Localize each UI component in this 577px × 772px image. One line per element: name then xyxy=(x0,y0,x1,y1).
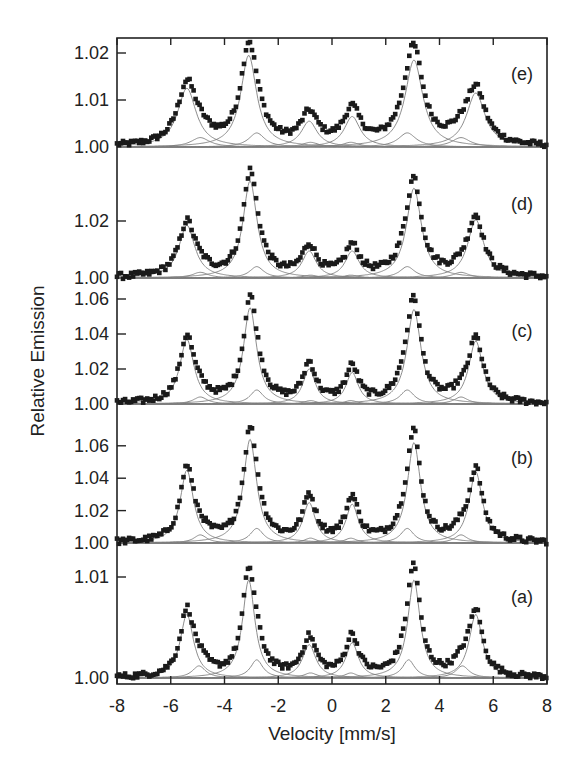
x-tick-label: 8 xyxy=(542,696,552,716)
panel-label: (e) xyxy=(511,64,533,84)
data-points xyxy=(115,561,549,682)
fit-component-line xyxy=(117,643,547,678)
panel-b: 1.001.021.041.06(b) xyxy=(74,425,549,553)
fit-component-line xyxy=(117,645,547,678)
y-tick-label: 1.00 xyxy=(74,137,109,157)
y-tick-label: 1.00 xyxy=(74,533,109,553)
data-points xyxy=(115,425,549,546)
x-tick-label: -6 xyxy=(163,696,179,716)
x-tick-label: -4 xyxy=(216,696,232,716)
y-tick-label: 1.01 xyxy=(74,90,109,110)
data-points xyxy=(115,292,549,406)
panel-a: 1.001.01(a) xyxy=(74,561,549,689)
y-tick-label: 1.06 xyxy=(74,436,109,456)
y-tick-label: 1.00 xyxy=(74,668,109,688)
fit-component-line xyxy=(117,503,547,543)
y-tick-label: 1.02 xyxy=(74,43,109,63)
x-tick-label: -2 xyxy=(270,696,286,716)
fit-component-line xyxy=(117,369,547,404)
panel-label: (b) xyxy=(511,448,533,468)
fit-component-line xyxy=(117,614,547,678)
data-points xyxy=(115,166,549,282)
y-axis-title: Relative Emission xyxy=(27,286,48,437)
fit-component-line xyxy=(117,121,547,147)
y-tick-label: 1.04 xyxy=(74,468,109,488)
y-tick-label: 1.02 xyxy=(74,211,109,231)
y-tick-label: 1.06 xyxy=(74,289,109,309)
y-tick-label: 1.02 xyxy=(74,359,109,379)
x-tick-label: 6 xyxy=(488,696,498,716)
fit-component-line xyxy=(117,341,547,404)
plot-panels: 1.001.011.02(e)1.001.02(d)1.001.021.041.… xyxy=(74,40,549,688)
fit-component-line xyxy=(117,339,547,404)
panel-label: (c) xyxy=(512,321,533,341)
panel-label: (d) xyxy=(511,194,533,214)
fit-component-line xyxy=(117,614,547,678)
x-axis-title: Velocity [mm/s] xyxy=(268,723,396,744)
panel-label: (a) xyxy=(511,587,533,607)
x-tick-label: 0 xyxy=(327,696,337,716)
y-tick-label: 1.04 xyxy=(74,324,109,344)
fit-component-line xyxy=(117,504,547,543)
y-tick-label: 1.00 xyxy=(74,268,109,288)
x-tick-label: 4 xyxy=(434,696,444,716)
panel-e: 1.001.011.02(e) xyxy=(74,40,549,157)
x-tick-label: 2 xyxy=(381,696,391,716)
y-tick-label: 1.00 xyxy=(74,394,109,414)
panel-d: 1.001.02(d) xyxy=(74,166,549,288)
mossbauer-spectra-figure: 1.001.011.02(e)1.001.02(d)1.001.021.041.… xyxy=(0,0,577,772)
data-points xyxy=(115,40,549,149)
y-tick-label: 1.01 xyxy=(74,567,109,587)
x-tick-label: -8 xyxy=(109,696,125,716)
panel-c: 1.001.021.041.06(c) xyxy=(74,289,549,414)
y-tick-label: 1.02 xyxy=(74,501,109,521)
